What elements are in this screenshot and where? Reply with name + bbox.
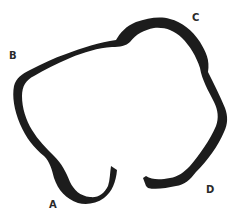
label-c: C bbox=[192, 13, 199, 23]
loop-band-diagram bbox=[0, 0, 238, 223]
label-b: B bbox=[9, 51, 17, 61]
label-a: A bbox=[49, 200, 57, 210]
label-d: D bbox=[206, 185, 214, 195]
loop-band-shape bbox=[13, 18, 227, 204]
